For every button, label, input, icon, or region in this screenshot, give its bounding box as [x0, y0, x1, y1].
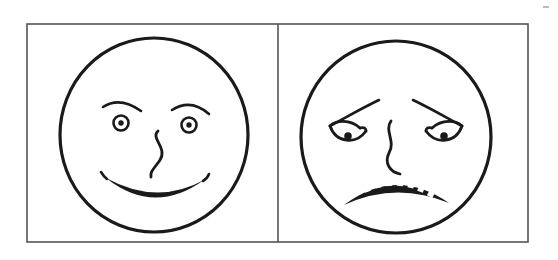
happy-right-eye-pupil	[186, 122, 191, 127]
sad-face-outline	[301, 41, 491, 233]
happy-right-eye	[182, 118, 197, 133]
tooth	[150, 202, 156, 207]
tooth	[160, 203, 166, 207]
tooth	[386, 181, 392, 187]
sad-right-eye-pupil	[440, 132, 448, 140]
happy-left-eye	[114, 116, 129, 131]
happy-face-panel	[60, 38, 248, 232]
tooth	[170, 202, 176, 207]
figure-canvas: Two line-drawn faces: happy and sad happ…	[0, 0, 558, 260]
scan-speck-artifact	[543, 6, 549, 8]
tooth	[397, 181, 403, 186]
happy-left-eye-pupil	[118, 120, 123, 125]
two-faces-illustration	[0, 0, 558, 260]
sad-face-panel	[301, 41, 491, 233]
sad-left-eye-pupil	[344, 132, 352, 140]
